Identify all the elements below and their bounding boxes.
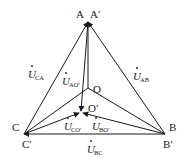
phasor-diagram: A A′ O O′ C C′ B B′ U CA U AO′ U AB U CO… xyxy=(0,0,189,163)
svg-text:BO′: BO′ xyxy=(99,126,110,133)
vector-u-ao-prime xyxy=(81,22,88,111)
label-o-prime: O′ xyxy=(88,102,98,114)
svg-text:CO′: CO′ xyxy=(71,126,82,133)
label-o: O xyxy=(93,83,101,95)
label-c-prime: C′ xyxy=(22,138,32,150)
svg-text:BC: BC xyxy=(94,149,103,156)
svg-text:CA: CA xyxy=(35,74,44,81)
label-a: A xyxy=(76,8,84,20)
label-u-ab: U AB xyxy=(133,67,150,83)
label-a-prime: A′ xyxy=(90,8,100,20)
svg-text:AB: AB xyxy=(140,76,150,83)
label-u-bc: U BC xyxy=(87,140,103,156)
label-u-ca: U CA xyxy=(28,65,44,81)
label-u-co-prime: U CO′ xyxy=(64,117,82,133)
label-b: B xyxy=(169,121,176,133)
label-b-prime: B′ xyxy=(163,138,173,150)
label-c: C xyxy=(12,121,19,133)
svg-text:AO′: AO′ xyxy=(69,81,80,88)
label-u-ao-prime: U AO′ xyxy=(62,72,80,88)
